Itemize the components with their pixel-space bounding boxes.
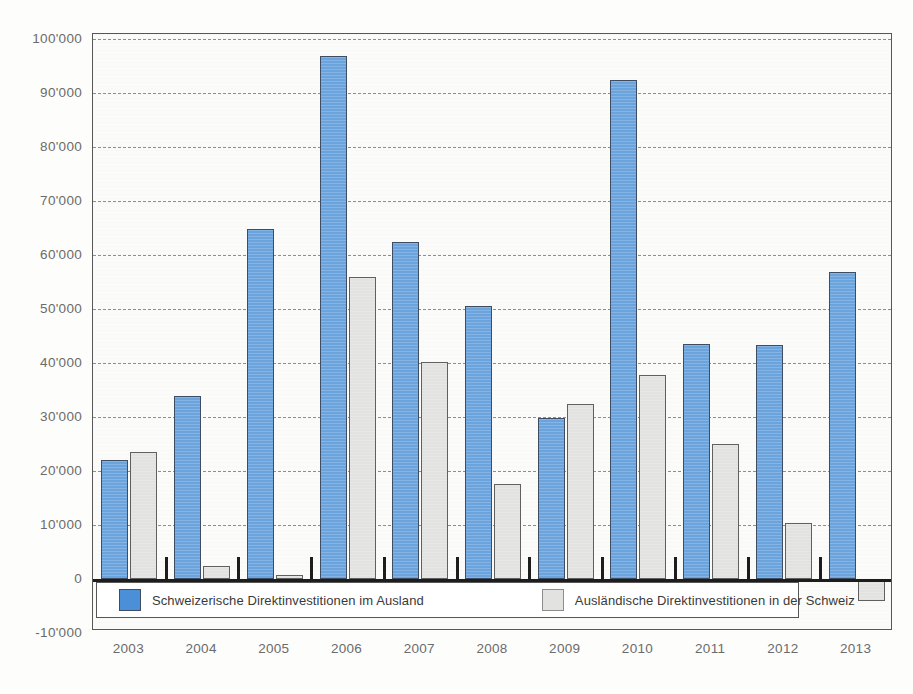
- x-axis-tick-label: 2005: [258, 641, 289, 656]
- bar-grey-2006: [349, 277, 376, 579]
- x-axis-tick-label: 2009: [549, 641, 580, 656]
- legend-item-foreign-in-switzerland: Ausländische Direktinvestitionen in der …: [542, 589, 855, 611]
- x-axis-tick-label: 2013: [840, 641, 871, 656]
- baseline-tick: [747, 557, 750, 579]
- y-axis-tick-label: -10'000: [4, 625, 82, 640]
- chart-legend: Schweizerische Direktinvestitionen im Au…: [96, 582, 799, 618]
- bar-blue-2007: [392, 242, 419, 579]
- bar-texture: [422, 363, 447, 578]
- bar-blue-2012: [756, 345, 783, 579]
- baseline-tick: [456, 557, 459, 579]
- y-axis-tick-label: 70'000: [4, 193, 82, 208]
- baseline-tick: [165, 557, 168, 579]
- bar-blue-2006: [320, 56, 347, 579]
- baseline-tick: [528, 557, 531, 579]
- bar-grey-2004: [203, 566, 230, 580]
- x-axis-tick-label: 2010: [622, 641, 653, 656]
- bar-texture: [786, 524, 811, 578]
- bar-texture: [859, 580, 884, 600]
- bar-blue-2013: [829, 272, 856, 579]
- bar-texture: [539, 419, 564, 578]
- bar-texture: [830, 273, 855, 578]
- x-axis-tick-label: 2008: [476, 641, 507, 656]
- bar-texture: [277, 576, 302, 578]
- gridline: [93, 93, 891, 94]
- gridline: [93, 39, 891, 40]
- bar-grey-2009: [567, 404, 594, 579]
- legend-label-swiss-abroad: Schweizerische Direktinvestitionen im Au…: [152, 593, 424, 608]
- bar-blue-2008: [465, 306, 492, 579]
- bar-texture: [102, 461, 127, 578]
- bar-texture: [713, 445, 738, 578]
- y-axis-tick-label: 100'000: [4, 31, 82, 46]
- bar-texture: [321, 57, 346, 578]
- bar-texture: [495, 485, 520, 578]
- x-axis-tick-label: 2011: [695, 641, 725, 656]
- baseline-tick: [383, 557, 386, 579]
- y-axis-labels: 100'00090'00080'00070'00060'00050'00040'…: [0, 33, 82, 630]
- bar-blue-2004: [174, 396, 201, 579]
- y-axis-tick-label: 80'000: [4, 139, 82, 154]
- bar-blue-2010: [610, 80, 637, 580]
- x-axis-labels: 2003200420052006200720082009201020112012…: [92, 641, 892, 665]
- legend-swatch-blue: [119, 589, 141, 611]
- gridline: [93, 147, 891, 148]
- y-axis-tick-label: 30'000: [4, 409, 82, 424]
- x-axis-tick-label: 2012: [767, 641, 798, 656]
- bar-texture: [466, 307, 491, 578]
- bar-grey-2013: [858, 579, 885, 601]
- bar-blue-2005: [247, 229, 274, 579]
- legend-swatch-grey: [542, 589, 564, 611]
- bar-texture: [757, 346, 782, 578]
- bar-texture: [640, 376, 665, 578]
- gridline: [93, 201, 891, 202]
- y-axis-tick-label: 60'000: [4, 247, 82, 262]
- bar-grey-2007: [421, 362, 448, 579]
- bar-texture: [611, 81, 636, 579]
- bar-blue-2009: [538, 418, 565, 579]
- bar-texture: [393, 243, 418, 578]
- gridline: [93, 255, 891, 256]
- x-axis-tick-label: 2006: [331, 641, 362, 656]
- y-axis-tick-label: 50'000: [4, 301, 82, 316]
- bar-texture: [684, 345, 709, 578]
- x-axis-tick-label: 2004: [185, 641, 216, 656]
- bar-texture: [204, 567, 229, 579]
- cropped-header-text: [110, 0, 410, 7]
- bar-blue-2003: [101, 460, 128, 579]
- plot-inner: [93, 34, 891, 629]
- bar-grey-2003: [130, 452, 157, 579]
- baseline-tick: [674, 557, 677, 579]
- bar-texture: [568, 405, 593, 578]
- bar-grey-2012: [785, 523, 812, 579]
- y-axis-tick-label: 0: [4, 571, 82, 586]
- bar-grey-2008: [494, 484, 521, 579]
- bar-grey-2010: [639, 375, 666, 579]
- bar-texture: [131, 453, 156, 578]
- gridline: [93, 309, 891, 310]
- bar-blue-2011: [683, 344, 710, 579]
- baseline-tick: [310, 557, 313, 579]
- baseline-tick: [819, 557, 822, 579]
- y-axis-tick-label: 90'000: [4, 85, 82, 100]
- bar-texture: [175, 397, 200, 578]
- bar-texture: [350, 278, 375, 578]
- baseline-tick: [237, 557, 240, 579]
- chart-figure: 100'00090'00080'00070'00060'00050'00040'…: [0, 0, 913, 694]
- y-axis-tick-label: 10'000: [4, 517, 82, 532]
- bar-texture: [248, 230, 273, 578]
- y-axis-tick-label: 20'000: [4, 463, 82, 478]
- x-axis-tick-label: 2007: [404, 641, 435, 656]
- bar-grey-2011: [712, 444, 739, 579]
- plot-area: [92, 33, 892, 630]
- x-axis-tick-label: 2003: [113, 641, 144, 656]
- legend-label-foreign-in-switzerland: Ausländische Direktinvestitionen in der …: [575, 593, 855, 608]
- legend-item-swiss-abroad: Schweizerische Direktinvestitionen im Au…: [119, 589, 424, 611]
- baseline-tick: [601, 557, 604, 579]
- y-axis-tick-label: 40'000: [4, 355, 82, 370]
